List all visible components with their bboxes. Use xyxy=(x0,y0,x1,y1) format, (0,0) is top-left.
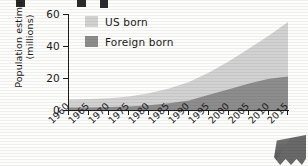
chart-figure: Population estimates (millions) 0 20 40 … xyxy=(0,0,308,166)
legend-item-us-born: US born xyxy=(85,15,174,28)
y-tick-label-20: 20 xyxy=(46,72,60,84)
legend-label-foreign-born: Foreign born xyxy=(105,36,174,48)
y-tick-label-60: 60 xyxy=(46,8,60,20)
y-tick-20 xyxy=(63,78,68,79)
y-axis-line xyxy=(68,14,69,110)
scan-artifact-bottom-right xyxy=(272,135,306,165)
legend-swatch-foreign-born xyxy=(85,36,98,47)
scan-artifact-top-mid xyxy=(77,0,86,7)
y-tick-60 xyxy=(63,14,68,15)
legend-swatch-us-born xyxy=(85,16,98,27)
y-axis-title-line-2: (millions) xyxy=(24,0,35,89)
legend-label-us-born: US born xyxy=(105,16,148,28)
scan-artifact-top-right xyxy=(100,0,108,8)
legend-item-foreign-born: Foreign born xyxy=(85,35,174,48)
y-axis-title-line-1: Population estimates xyxy=(13,0,24,89)
y-tick-40 xyxy=(63,46,68,47)
y-tick-label-40: 40 xyxy=(46,40,60,52)
chart-legend: US born Foreign born xyxy=(85,15,174,55)
y-axis-title: Population estimates (millions) xyxy=(13,0,35,89)
